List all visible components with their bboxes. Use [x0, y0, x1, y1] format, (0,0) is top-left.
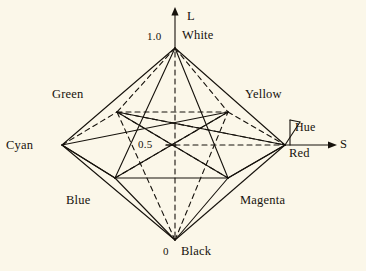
tick-label-0: 0 — [163, 246, 169, 257]
apex-label-black: Black — [181, 245, 211, 258]
vertex-label-green: Green — [52, 88, 84, 101]
lightness-axis-arrowhead — [171, 7, 178, 16]
tick-label-1-0: 1.0 — [147, 31, 161, 42]
upper-cone-front-edges — [62, 48, 285, 178]
vertex-label-magenta: Magenta — [240, 194, 285, 207]
apex-label-white: White — [182, 29, 214, 42]
tick-label-0-5: 0.5 — [138, 139, 152, 150]
hsl-double-hexcone-figure: L S 1.0 White 0.5 0 Black Green Yellow C… — [0, 0, 366, 271]
vertex-label-yellow: Yellow — [245, 88, 282, 101]
lightness-axis-label: L — [187, 10, 195, 23]
vertex-label-red: Red — [289, 147, 310, 160]
vertex-label-blue: Blue — [66, 194, 90, 207]
vertex-label-cyan: Cyan — [6, 139, 33, 152]
hue-angle-label: Hue — [295, 121, 316, 133]
saturation-axis-label: S — [340, 138, 347, 151]
saturation-axis-arrowhead — [328, 141, 337, 148]
